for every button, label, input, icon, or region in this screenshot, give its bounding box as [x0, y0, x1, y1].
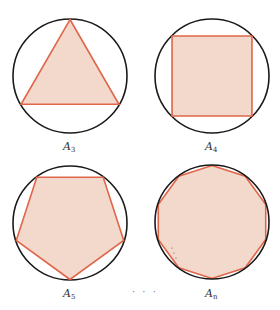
inscribed-polygons-diagram: A3 A4 A5 · · · An	[0, 0, 280, 310]
panel-a3: A3	[13, 19, 127, 154]
inscribed-square	[172, 36, 252, 116]
inscribed-pentagon	[16, 177, 123, 279]
dot-mark	[171, 247, 172, 248]
ellipsis: · · ·	[132, 286, 158, 297]
label-a5: A5	[62, 287, 75, 301]
label-a4: A4	[204, 140, 218, 154]
panel-an: An	[155, 165, 269, 301]
panel-a5: A5	[13, 166, 127, 301]
dot-mark	[173, 252, 174, 253]
inscribed-triangle	[21, 20, 119, 105]
label-an: An	[204, 287, 218, 301]
dot-mark	[175, 257, 176, 258]
panel-a4: A4	[155, 19, 269, 154]
label-a3: A3	[62, 140, 75, 154]
inscribed-n-gon	[158, 166, 265, 279]
